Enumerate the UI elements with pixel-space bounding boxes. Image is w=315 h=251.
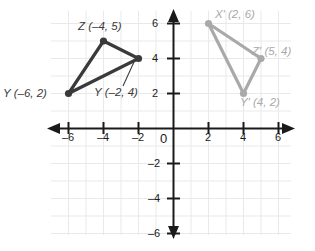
x-tick-label-pos4: 4 — [240, 131, 246, 143]
y-tick-label-neg2: –2 — [148, 157, 160, 169]
y-tick-label-neg6: –6 — [148, 227, 160, 239]
vertex-Y — [65, 90, 72, 97]
vertex-X — [135, 55, 142, 62]
x-tick-label-pos6: 6 — [275, 131, 281, 143]
x-tick-label-neg6: –6 — [62, 131, 74, 143]
point-label-Y-prime: Y′ (4, 2) — [240, 96, 280, 108]
origin-label: 0 — [160, 131, 167, 146]
point-label-Z: Z (–4, 5) — [78, 20, 121, 32]
y-tick-label-pos2: 2 — [152, 87, 158, 99]
plot-svg — [0, 0, 315, 251]
x-tick-label-neg4: –4 — [97, 131, 109, 143]
y-tick-label-pos4: 4 — [152, 52, 158, 64]
vertex-Z — [100, 37, 107, 44]
x-tick-label-pos2: 2 — [205, 131, 211, 143]
point-label-X: Y (–2, 4) — [94, 86, 138, 98]
vertex-X-prime — [205, 20, 212, 27]
coordinate-plane-figure: –6 –4 –2 2 4 6 6 4 2 –2 –4 –6 0 Z (–4, 5… — [0, 0, 315, 251]
y-tick-label-pos6: 6 — [152, 17, 158, 29]
x-tick-label-neg2: –2 — [132, 131, 144, 143]
point-label-X-prime: X′ (2, 6) — [215, 8, 255, 20]
point-label-Y: Y (–6, 2) — [3, 87, 47, 99]
y-tick-label-neg4: –4 — [148, 192, 160, 204]
point-label-Z-prime: Z′ (5, 4) — [252, 45, 291, 57]
